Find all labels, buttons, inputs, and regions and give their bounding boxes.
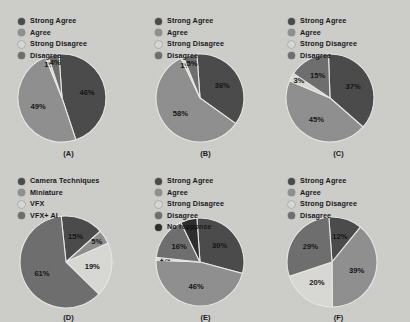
legend-item[interactable]: Strong Agree — [288, 16, 357, 26]
legend-item[interactable]: Miniature — [18, 188, 99, 198]
legend-swatch-icon — [288, 41, 295, 48]
legend-item[interactable]: Disagree — [288, 51, 357, 61]
legend-item-label: Agree — [167, 29, 188, 37]
legend-f: Strong AgreeAgreeStrong DisagreeDisagree — [288, 176, 357, 222]
legend-item[interactable]: Strong Disagree — [288, 199, 357, 209]
legend-item[interactable]: VFX — [18, 199, 99, 209]
legend-item-label: VFX — [30, 200, 44, 208]
legend-item-label: Disagree — [167, 212, 198, 220]
legend-swatch-icon — [18, 201, 25, 208]
legend-item[interactable]: Agree — [155, 188, 224, 198]
legend-item[interactable]: Agree — [18, 28, 87, 38]
legend-item[interactable]: Agree — [288, 28, 357, 38]
legend-swatch-icon — [155, 52, 162, 59]
legend-swatch-icon — [155, 29, 162, 36]
legend-item-label: Strong Disagree — [300, 200, 357, 208]
legend-item[interactable]: VFX+ AI — [18, 211, 99, 221]
legend-item[interactable]: Strong Disagree — [288, 39, 357, 49]
legend-item[interactable]: Camera Techniques — [18, 176, 99, 186]
panel-caption-f: (F) — [270, 313, 407, 322]
legend-item-label: Strong Agree — [300, 17, 346, 25]
pie-slice-label: 16% — [172, 242, 187, 251]
legend-item-label: Miniature — [30, 189, 63, 197]
pie-slice-label: 5% — [91, 237, 102, 246]
legend-swatch-icon — [18, 18, 25, 25]
legend-item-label: Disagree — [300, 52, 331, 60]
legend-item-label: Disagree — [167, 52, 198, 60]
legend-item-label: Strong Disagree — [30, 40, 87, 48]
legend-swatch-icon — [288, 212, 295, 219]
pie-panel-b: Strong AgreeAgreeStrong DisagreeDisagree… — [137, 2, 274, 162]
pie-slice-label: 45% — [309, 115, 324, 124]
legend-item-label: Strong Disagree — [167, 40, 224, 48]
legend-a: Strong AgreeAgreeStrong DisagreeDisagree — [18, 16, 87, 62]
legend-item[interactable]: Strong Agree — [155, 176, 224, 186]
pie-slice-label: 30% — [212, 241, 227, 250]
legend-b: Strong AgreeAgreeStrong DisagreeDisagree — [155, 16, 224, 62]
pie-slice-label: 58% — [173, 109, 188, 118]
pie-slice-label: 49% — [30, 102, 45, 111]
legend-item-label: Camera Techniques — [30, 177, 99, 185]
legend-swatch-icon — [155, 18, 162, 25]
legend-swatch-icon — [18, 189, 25, 196]
panel-caption-c: (C) — [270, 149, 407, 158]
legend-swatch-icon — [288, 29, 295, 36]
pie-slice-label: 39% — [349, 266, 364, 275]
legend-item[interactable]: Disagree — [155, 51, 224, 61]
pie-slice-label: 46% — [189, 282, 204, 291]
legend-item-label: Strong Agree — [167, 177, 213, 185]
legend-swatch-icon — [18, 178, 25, 185]
pie-slice-label: 20% — [309, 278, 324, 287]
pie-slice-label: 61% — [34, 269, 49, 278]
legend-item[interactable]: Strong Agree — [18, 16, 87, 26]
pie-slice-label: 29% — [303, 242, 318, 251]
legend-item-label: Agree — [300, 29, 321, 37]
legend-item-label: Strong Agree — [30, 17, 76, 25]
legend-item-label: Disagree — [300, 212, 331, 220]
legend-swatch-icon — [288, 18, 295, 25]
figure-canvas: Strong AgreeAgreeStrong DisagreeDisagree… — [0, 0, 410, 322]
legend-item[interactable]: Disagree — [155, 211, 224, 221]
legend-item[interactable]: Strong Disagree — [18, 39, 87, 49]
pie-slice-label: 15% — [68, 232, 83, 241]
pie-slice-label: 15% — [310, 71, 325, 80]
legend-item[interactable]: Strong Agree — [155, 16, 224, 26]
pie-panel-e: Strong AgreeAgreeStrong DisagreeDisagree… — [137, 162, 274, 322]
pie-panel-d: Camera TechniquesMiniatureVFXVFX+ AI15%5… — [0, 162, 137, 322]
legend-swatch-icon — [18, 212, 25, 219]
panel-caption-e: (E) — [137, 313, 274, 322]
legend-swatch-icon — [288, 189, 295, 196]
legend-item-label: Agree — [300, 189, 321, 197]
legend-swatch-icon — [155, 224, 162, 231]
pie-slice-label: 37% — [345, 82, 360, 91]
legend-item[interactable]: Strong Disagree — [155, 39, 224, 49]
legend-item[interactable]: Agree — [288, 188, 357, 198]
legend-item-label: Agree — [167, 189, 188, 197]
legend-item[interactable]: Agree — [155, 28, 224, 38]
legend-item[interactable]: No response — [155, 222, 224, 232]
legend-item[interactable]: Strong Agree — [288, 176, 357, 186]
legend-item[interactable]: Disagree — [288, 211, 357, 221]
legend-swatch-icon — [18, 52, 25, 59]
panel-caption-a: (A) — [0, 149, 137, 158]
legend-item[interactable]: Disagree — [18, 51, 87, 61]
legend-swatch-icon — [18, 41, 25, 48]
legend-swatch-icon — [155, 178, 162, 185]
pie-slice-label: 12% — [332, 232, 347, 241]
pie-panel-c: Strong AgreeAgreeStrong DisagreeDisagree… — [270, 2, 407, 162]
panel-caption-b: (B) — [137, 149, 274, 158]
legend-item-label: Strong Disagree — [300, 40, 357, 48]
legend-swatch-icon — [288, 201, 295, 208]
panel-caption-d: (D) — [0, 313, 137, 322]
legend-swatch-icon — [155, 189, 162, 196]
legend-item-label: Strong Disagree — [167, 200, 224, 208]
pie-slice-label: 36% — [215, 81, 230, 90]
legend-item-label: Strong Agree — [300, 177, 346, 185]
legend-item-label: No response — [167, 223, 212, 231]
legend-item[interactable]: Strong Disagree — [155, 199, 224, 209]
legend-swatch-icon — [155, 201, 162, 208]
legend-item-label: Strong Agree — [167, 17, 213, 25]
legend-item-label: Disagree — [30, 52, 61, 60]
pie-panel-f: Strong AgreeAgreeStrong DisagreeDisagree… — [270, 162, 407, 322]
pie-panel-a: Strong AgreeAgreeStrong DisagreeDisagree… — [0, 2, 137, 162]
